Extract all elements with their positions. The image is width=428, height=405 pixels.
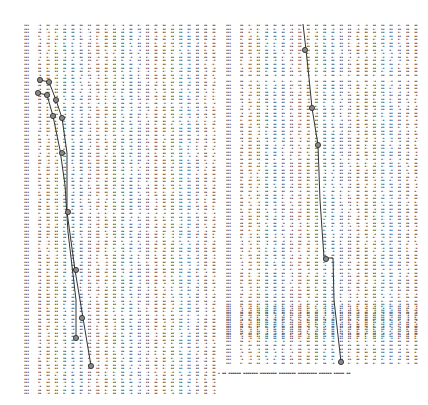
data-column: ▫▪▫▪▪▪▪▪▪▫▪▫▪▪▪▪▪▪▪▪▫▪▪▫▪▪▪▪▫▪▪▪▪▫: [373, 305, 381, 365]
data-column: ▫▪▪▪▫▪▪▪▪▪▪▫▪▪▪▪▫▪▪▪▪▪▪▫▪▪▪▪▪▪▪▪▫▪▫▪▪▪▪▪…: [373, 80, 381, 339]
data-column: ▪▪▪▪▪▪▪▪▫▪▪▪▪▪▪▫▫▪▫▪▪▫▪▪▫▪▪▪▪▪: [389, 24, 397, 77]
data-column: ▪▪▪▪▫▪▪▪▫▪▪▪▫▪▫▪▪▪▫▪▪▪▪▫▪▪▪▪▪▪▫▪▪▪▫▪▫▪▪▪…: [240, 80, 248, 339]
data-column: ▫▪▪▪▪▪▪▪▪▪▪▪▫▪▪▪▪▫▫▪▪▪▪▪▪▪▪▪▪▪: [364, 24, 372, 77]
data-column: ▪▪▫▪▪▪▪▪▫▪▪▪▪▪▪▫▫▪▪▫▪▫▪▪▪▪▪▪▪▪: [281, 24, 289, 77]
data-column: ▪▪▪▫▫▪▪▪▫▪▪▪▪▪▪▪▪▫▪▪▫▪▪▫▪▪▪▪▪▪▪▪▪▫▪▪▪▪▫▪…: [121, 236, 129, 396]
data-column: ▪▪▪▪▫▪▪▫▪▪▪▪▪▪▫▪▪▪▪▪▪▫▪▪▫▪▪▪▪▪▪▫▪▪▪▪▪▪▫▪…: [348, 80, 356, 339]
data-column: ▫▪▫▪▪▪▪▪▪▪▪▪▪▪▪▪▪▪▪▪▪▫▪▪▪▪▪▫▫▪▪▪▫▪▫▪▪▪▪▫…: [121, 24, 129, 237]
data-column: ▫▪▫▪▫▪▪▫▫▪▪▫▪▫▪▫▪▫▪▫▪▫▪▪▫▪▪▫▪▪▪▫▪▪: [323, 305, 331, 365]
data-column: ▪▫▪▪▪▫▪▪▪▪▫▪▪▪▪▫▪▪▪▫▪▪▪▪▪▪▪▪▪▪▪▫▪▪▪▪▪▪▫▪…: [290, 80, 298, 339]
data-column: ▪▪▪▪▪▪▫▪▪▪▪▪▫▪▪▫▫▪▫▪▪▪▪▪▫▪▪▫▪▪: [381, 24, 389, 77]
data-column: ▫▪▫▪▪▪▪▪▪▪▪▪▫▪▫▪▪▫▪▫▪▫▫▪▪▫▪▪▪▪▪▫▪▪: [364, 305, 372, 365]
data-column: ▪▪▪▪▪▪▪▪▪▪▪▫▪▪▪▫▪▪▪▪▫▪▪▫▪▪▫▪▪▪▪▫▪▪▪▪▪▫▫▪…: [204, 24, 212, 237]
data-column: ▪▪▪▪▪▪▪▪▪▫▫▪▪▫▪▪▪▫▪▫▪▫▫▪▪▪▪▪▫▪▪▪▪▪▪▪▪▪▪▪…: [340, 80, 348, 339]
data-column: ▪▫▪▪▪▪▪▪▫▪▪▪▪▪▪▫▪▪▪▫▪▫▪▪▪▪▪▪▪▫▪▪▪▫: [356, 305, 364, 365]
data-column: ▪▪▪▪▪▪▪▫▪▫▪▫▪▪▪▪▪▪▫▪▪▫▪▪▪▪▪▪▫▪▫▪▪▫▪▪▪▪▫▪…: [96, 24, 104, 237]
data-column: ▪▪▫▪▪▪▪▫▪▪▪▫▪▪▪▫▪▪▪▫▪▪▪▪▪▪▪▪▪▪: [331, 24, 339, 77]
data-column: ▪▪▪▫▪▪▫▪▪▫▪▪▪▪▪▪▫▪▫▪▪▪▪▪▪▪▪▪▪▫: [373, 24, 381, 77]
data-column: ▪▫▫▪▫▪▪▫▫▪▪▫▪▪▪▪▪▫▪▪▪▫▪▪▪▪▪▪▪▪▪▫▪▪▪▪▪▪▪▪…: [46, 236, 54, 396]
data-column: ▪▪▪▫▫▪▪▪▪▪▪▫▪▪▪▪▫▪▫▪▪▪▪▪▪▪▪▪▪▫▪▪▪▫▫▪▪▪▪▪…: [187, 236, 195, 396]
data-column: ▪▫▪▪▫▪▪▪▪▪▪▪▪▪▪▫▪▪▪▫▪▪▪▪▪▪▪▪▪▪▪▫▪▪: [381, 305, 389, 365]
data-column: ▪▪▪▪▪▪▪▫▪▪▪▫▪▪▪▪▪▪▪▫▪▪▪▪▫▪▪▪▫▪: [323, 24, 331, 77]
data-column: ▪▫▪▪▪▪▪▪▪▪▪▪▪▪▫▪▪▫▫▪▪▪▪▪▪▪▪▪▫▪▫▪▪▪▪▪▪▪▫▪…: [113, 24, 121, 237]
data-column: ▪▪▪▪▪▪▪▪▫▪▪▪▪▪▪▪▪▪▪▫▫▪▪▪▪▪▪▪▪▪▪▪▪▪: [298, 305, 306, 365]
data-column: ▪▪▪▫▪▪▪▪▪▪▪▪▫▪▪▪▪▪▫▪▪▪▪▫▫▪▪▫▪▪▪▪▪▪▪▪▪▪▪▫…: [63, 236, 71, 396]
data-column: ▪▪▪▪▪▪▪▪▪▪▫▪▪▪▪▪▪▪▪▫▪▪▪▪▪▫▪▪▪▪▪▪▪▫▫▪▫▪▪▪…: [88, 236, 96, 396]
data-column: ▪▫▪▫▪▪▫▪▪▪▪▪▪▪▪▪▪▪▫▪▪▪▪▪▪▫▪▪▪▪▪▫▫▪: [331, 305, 339, 365]
data-column: ▪▫▪▪▪▪▪▪▪▫▪▫▪▪▪▫▪▪▪▪▫▪▪▪▪▫▪▫▪▪▪▪▪▪: [281, 305, 289, 365]
footer-caption: ▪ ▬▬ ▬▬▬▬▬▬ ▬▬▬▬▬▬▬ ▬▬▬▬▬▬▬▬ ▬▬▬▬▬▬▬▬ ▬▬…: [218, 371, 351, 375]
data-column: ▫▪▪▫▪▪▫▪▫▪▪▪▪▪▪▪▪▪▪▪▪▪▪▫▪▫▪▪▪▪▪▪▫▪: [406, 305, 414, 365]
data-column: ▪▪▪▪▪▪▪▪▪▪▫▪▪▪▪▪▪▪▪▪▪▪▪▪▪▪▪▪▪▪▪▪▪▪▪▪▪▪▪▪…: [196, 24, 204, 237]
data-column: ▪▪▫▪▪▪▪▪▪▪▪▫▪▫▪▫▫▪▪▪▪▪▪▪▪▪▪▫▫▪▪▪▫▪▪▫▪▫▪▪…: [96, 236, 104, 396]
data-column: ▪▪▪▫▫▪▫▪▫▪▪▪▪▪▪▫▪▪▪▪▪▪▪▫▪▪▪▫▪▪▫▪▪▫▪▪▫▪▫▪…: [88, 24, 96, 237]
data-column: ▫▪▫▪▪▪▪▫▪▪▫▪▪▪▪▪▪▪▫▪▪▫▪▪▪▪▪▪▪▪: [356, 24, 364, 77]
row-label-column: ▪▪▪▪▪▪▪▪▪▪▪▪▪▪▪▪▪▪▪▪▪▪▪▪▪▪▪▪▪▪▪▪▪▪▪▪▪▪▪▪…: [226, 24, 240, 77]
data-column: ▪▫▪▫▪▪▫▪▪▪▫▪▫▪▪▫▫▪▪▪▪▪▪▪▫▪▫▪▪▪▪▪▪▪: [306, 305, 314, 365]
numeric-table-block: ▪▪▪▪▪▪▪▪▪▪▪▪▪▪▪▪▪▪▪▪▪▪▪▪▪▪▪▪▪▪▪▪▪▪▪▪▪▪▪▪…: [226, 80, 423, 339]
data-column: ▫▪▪▪▪▪▪▫▫▪▪▪▪▪▪▪▪▪▪▪▪▪▪▪▪▪▪▫▪▪▪▪▪▪▪▪▪▫▪▪…: [113, 236, 121, 396]
data-column: ▫▪▫▪▪▪▪▫▫▪▫▪▪▪▪▪▫▪▫▪▪▫▪▪▪▪▪▪▫▪▪▫▪▪▪▪▫▪▫▪…: [38, 24, 46, 237]
data-column: ▪▪▪▫▫▪▪▪▫▪▪▫▪▪▪▪▫▪▪▪▪▪▫▪▪▫▪▪▪▫: [315, 24, 323, 77]
data-column: ▪▫▪▫▪▫▪▪▪▪▪▪▪▪▫▪▫▪▪▪▪▪▪▪▫▪▪▪▪▫▪▫▪▪▫▪▪▪▪▪…: [265, 80, 273, 339]
numeric-table-block: ▪▪▪▪▪▪▪▪▪▪▪▪▪▪▪▪▪▪▪▪▪▪▪▪▪▪▪▪▪▪▪▪▪▪▪▪▪▪▪▪…: [24, 236, 221, 396]
numeric-table-block: ▪▪▪▪▪▪▪▪▪▪▪▪▪▪▪▪▪▪▪▪▪▪▪▪▪▪▪▪▪▪▪▪▪▪▪▪▪▪▪▪…: [24, 24, 221, 237]
row-label-column: ▪▪▪▪▪▪▪▪▪▪▪▪▪▪▪▪▪▪▪▪▪▪▪▪▪▪▪▪▪▪▪▪▪▪▪▪▪▪▪▪…: [226, 80, 240, 339]
data-column: ▪▪▪▫▪▫▪▫▪▪▪▪▪▪▪▪▫▪▪▪▪▪▪▪▪▪▪▪▪▪: [257, 24, 265, 77]
data-column: ▪▫▪▪▫▪▫▪▪▫▪▪▪▪▫▪▪▫▫▪▪▪▫▪▪▫▪▫▪▫▪▫▪▪▪▪▪▪▪▫…: [138, 24, 146, 237]
data-column: ▪▪▪▪▪▪▫▪▪▪▫▪▪▪▪▪▪▪▪▫▪▪▪▪▪▫▪▫▪▪▪▪▪▫▪▪▪▪▫▪…: [162, 24, 170, 237]
data-column: ▪▪▫▪▪▪▫▪▪▪▪▪▪▪▪▫▫▪▪▪▪▪▪▪▪▪▪▫▫▪▪▪▪▪▫▪▫▪▪▪…: [398, 80, 406, 339]
data-column: ▪▪▪▫▫▪▫▪▫▪▪▪▫▪▫▪▪▫▪▫▪▪▪▪▪▫▪▪▪▪▪▪▪▪▪▪▪▪▪▪…: [46, 24, 54, 237]
data-column: ▪▪▫▪▪▪▪▪▪▫▪▫▪▪▪▪▫▪▪▪▪▪▪▪▪▪▪▪▪▫▪▪▪▪▫▪▪▪▪▪…: [154, 236, 162, 396]
data-column: ▪▪▪▪▪▫▪▪▪▪▪▪▪▪▫▪▫▪▪▪▪▪▪▪▪▪▪▪▪▫: [340, 24, 348, 77]
data-column: ▪▪▫▪▪▪▪▪▪▫▫▪▪▪▪▪▫▪▫▪▪▪▪▪▪▪▪▪▪▪▪▫▪▪▫▪▪▫▪▪…: [129, 236, 137, 396]
data-column: ▪▪▪▪▪▪▪▪▪▫▪▪▪▪▪▪▪▪▪▫▪▪▪▫▪▪▪▪▪▪: [406, 24, 414, 77]
data-column: ▪▪▪▪▪▪▫▪▪▪▪▪▪▪▪▫▪▪▪▪▫▪▪▫▫▪▪▪▪▫▫▪▫▪▪▪▪▫▪▫…: [212, 24, 220, 237]
data-column: ▫▪▪▪▪▪▪▪▫▪▪▪▫▪▪▪▪▫▪▪▪▪▪▫▪▪▪▫▪▪▫▪▪▪▪▫▪▪▪▪…: [171, 24, 179, 237]
data-column: ▪▪▪▪▪▪▫▪▪▪▪▪▫▪▪▫▪▪▪▪▫▪▪▫▪▫▪▪▫▪▪▪▪▪▪▪▫▪▪▪…: [331, 80, 339, 339]
data-column: ▪▪▪▪▪▪▪▪▪▪▪▪▪▪▪▪▪▪▪▪▪▫▪▪▪▪▪▪▪▪: [414, 24, 422, 77]
data-column: ▪▫▫▪▪▪▪▫▪▪▪▫▪▪▪▪▪▪▪▪▪▪▪▪▪▪▪▪▪▪▪▪▪▪▪▫▫▪▪▪…: [273, 80, 281, 339]
data-column: ▪▪▪▪▪▪▪▪▪▫▪▪▪▪▪▪▪▪▪▪▪▫▪▫▫▪▪▪▪▪: [240, 24, 248, 77]
data-column: ▪▪▫▪▪▪▫▪▪▪▪▪▫▪▪▫▪▫▫▪▪▪▪▪▪▪▪▪▪▪▪▫▪▪: [389, 305, 397, 365]
row-label-column: ▪▪▪▪▪▪▪▪▪▪▪▪▪▪▪▪▪▪▪▪▪▪▪▪▪▪▪▪▪▪▪▪▪▪▪▪▪▪▪▪…: [226, 305, 240, 365]
data-column: ▫▪▪▪▪▪▪▪▪▪▫▪▫▪▪▪▪▪▪▪▪▪▪▪▪▪▪▪▫▪▪▪▫▪▪▪▫▪▪▪…: [306, 80, 314, 339]
data-column: ▪▪▪▪▪▪▪▪▪▪▪▪▫▪▪▫▫▪▪▪▪▪▪▪▫▪▪▪▫▪▪▪▪▪▪▪▫▪▪▪…: [179, 24, 187, 237]
data-column: ▫▪▫▪▪▪▪▪▪▪▪▫▪▪▪▪▪▪▪▪▪▪▪▫▪▪▫▪▪▫▪▫▪▫▫▪▪▪▫▪…: [171, 236, 179, 396]
data-column: ▪▪▪▪▪▪▫▪▫▪▪▪▪▫▪▪▪▪▪▪▫▪▪▪▪▫▫▪▫▪▪▫▪▪: [273, 305, 281, 365]
data-column: ▪▪▪▪▫▪▫▪▪▪▪▪▪▪▪▪▪▪▪▪▪▪▫▪▪▪▪▫▪▪▪▫▫▪▫▪▪▫▫▪…: [298, 80, 306, 339]
data-column: ▪▪▪▫▪▪▪▪▪▪▪▪▪▪▪▫▫▪▪▪▫▪▪▪▪▪▪▪▪▫▪▪▪▪▪▫▪▪▪▫…: [104, 24, 112, 237]
data-column: ▫▪▪▪▪▪▫▪▪▪▪▫▫▪▫▪▪▪▪▪▪▫▪▫▪▪▪▫▫▪▪▪▫▪▪▪▪▪▪▪…: [406, 80, 414, 339]
data-column: ▪▪▪▪▪▫▪▪▪▪▪▪▪▪▪▪▪▪▪▫▫▪▪▪▪▪▪▪▪▪▪▪▫▪▫▪▪▪▫▪…: [204, 236, 212, 396]
numeric-table-block: ▪▪▪▪▪▪▪▪▪▪▪▪▪▪▪▪▪▪▪▪▪▪▪▪▪▪▪▪▪▪▪▪▪▪▪▪▪▪▪▪…: [226, 305, 423, 365]
data-column: ▪▫▪▪▪▪▪▫▪▪▪▪▪▫▪▪▪▪▪▪▪▫▪▪▪▪▪▪▪▪▫▪▪▪▪▪▪▪▪▪…: [356, 80, 364, 339]
data-column: ▫▪▫▪▪▫▪▫▪▪▪▫▪▫▪▪▪▪▪▪▪▪▪▪▪▪▪▪▪▪▪▪▫▪▫▪▪▫▫▪…: [389, 80, 397, 339]
data-column: ▪▪▪▫▪▫▪▫▪▪▪▫▪▫▪▪▪▪▪▪▫▪▪▪▫▪▪▪▫▪▪▫▪▫▫▪▫▪▪▫…: [79, 24, 87, 237]
data-column: ▪▫▪▪▪▪▫▪▪▪▪▪▪▪▪▪▪▫▪▪▪▪▫▪▪▪▫▪▪▫▫▪▪▪▪▫▪▪▪▪…: [162, 236, 170, 396]
row-label-column: ▪▪▪▪▪▪▪▪▪▪▪▪▪▪▪▪▪▪▪▪▪▪▪▪▪▪▪▪▪▪▪▪▪▪▪▪▪▪▪▪…: [24, 236, 38, 396]
data-column: ▪▪▪▪▪▪▪▪▪▪▪▫▫▪▪▫▪▪▫▪▪▫▪▪▪▪▪▫▪▪▪▪▪▪▪▪▪▪▪▪…: [129, 24, 137, 237]
data-column: ▪▪▪▪▪▪▪▫▫▪▪▪▪▪▪▪▪▫▪▪▪▪▪▫▪▫▫▪▪▫▪▪▪▪: [290, 305, 298, 365]
data-column: ▪▪▪▫▪▪▪▪▪▫▪▪▪▪▪▪▫▪▪▪▪▪▪▪▪▪▪▪▫▪▪▪▪▪: [340, 305, 348, 365]
data-column: ▪▫▫▪▪▪▪▪▪▪▪▪▫▪▪▪▪▪▪▪▪▪▪▪▪▪▪▪▪▪▪▪▪▫: [315, 305, 323, 365]
data-column: ▪▪▪▪▪▪▪▫▪▪▪▪▪▪▪▫▪▪▪▪▪▫▪▪▪▪▪▫▪▫▪▪▪▫: [348, 305, 356, 365]
row-label-column: ▪▪▪▪▪▪▪▪▪▪▪▪▪▪▪▪▪▪▪▪▪▪▪▪▪▪▪▪▪▪▪▪▪▪▪▪▪▪▪▪…: [24, 24, 38, 237]
data-column: ▪▫▪▫▫▪▪▪▪▪▪▫▪▪▪▪▫▪▪▪▪▪▪▫▪▪▪▪▪▪▫▪▪▪▫▪▫▪▫▪…: [179, 236, 187, 396]
data-column: ▫▪▪▪▪▪▪▫▫▪▫▪▪▪▪▪▪▪▪▫▪▪▪▪▪▪▪▫▪▪▪▪▪▪: [414, 305, 422, 365]
data-column: ▪▪▪▪▪▪▪▫▪▪▪▪▪▫▪▫▪▪▪▪▪▪▪▫▪▪▪▪▪▪▪▪▪▪▪▪▪▪▪▪…: [323, 80, 331, 339]
data-column: ▪▪▪▫▪▪▫▪▪▪▪▫▪▪▪▪▪▪▪▪▪▪▪▫▪▪▪▫▪▪▪▪▫▪▪▪▪▫▫▪…: [154, 24, 162, 237]
data-column: ▪▪▪▫▪▪▪▪▫▪▪▫▪▫▪▫▪▪▪▪▫▪▪▪▪▪▪▪▫▪: [273, 24, 281, 77]
data-column: ▪▪▪▪▪▪▪▪▪▫▪▫▪▫▪▪▫▪▫▪▪▫▪▪▪▫▪▪▪▫: [348, 24, 356, 77]
data-column: ▪▫▫▪▪▪▪▪▪▪▫▪▪▪▫▪▫▪▪▪▪▫▪▪▫▪▫▪▪▪▫▪▪▪▪▪▪▪▪▫…: [196, 236, 204, 396]
data-column: ▪▪▪▪▪▪▪▪▫▪▪▫▪▫▪▫▪▪▫▪▪▫▪▪▪▪▪▪▪▫▪▪▪▪▫▪▪▪▪▫…: [71, 24, 79, 237]
data-column: ▪▪▪▪▫▪▪▫▪▪▪▫▪▪▫▪▪▫▪▪▪▪▪▪▪▪▪▪▫▪: [306, 24, 314, 77]
data-column: ▫▪▪▪▪▫▫▪▪▪▪▫▪▫▪▫▪▪▪▪▪▪▪▪▪▪▪▪▫▪▪▪▫▪▫▪▪▪▪▪…: [55, 24, 63, 237]
data-column: ▪▪▪▪▪▫▪▫▪▪▪▪▪▪▪▪▫▪▪▪▪▪▪▪▫▪▪▪▫▪▪▪▪▪▪▪▪▪▪▪…: [38, 236, 46, 396]
data-column: ▪▪▪▪▪▪▪▪▪▪▪▪▪▪▪▪▪▪▪▫▪▪▪▪▪▪▫▪▪▪▪▪▫▪▪▪▪▪▪▪…: [146, 24, 154, 237]
data-column: ▪▪▫▪▫▪▪▪▫▪▪▪▪▪▪▫▪▪▫▪▪▪▪▪▪▪▫▪▪▪▪▫▪▪▪▫▫▪▪▪…: [315, 80, 323, 339]
data-column: ▪▫▫▪▪▪▪▫▪▪▪▪▪▪▪▪▪▫▫▪▪▪▪▫▪▫▫▪▪▫▫▪▪▫: [240, 305, 248, 365]
data-column: ▪▪▪▪▪▪▪▪▫▪▪▪▪▪▪▪▪▪▪▫▪▫▫▪▪▪▪▪▪▪▪▪▫▪▫▪▪▪▪▪…: [381, 80, 389, 339]
data-column: ▪▫▪▪▪▪▪▪▪▪▫▪▪▪▪▪▪▪▪▪▪▪▪▪▪▪▫▪▫▪▫▪▪▫▪▪▪▪▪▪…: [257, 80, 265, 339]
data-column: ▪▪▪▪▪▪▪▪▫▪▪▫▪▫▫▪▪▪▪▪▪▪▫▪▪▪▫▪▪▫▪▪▫▪▪▫▪▫▪▪…: [414, 80, 422, 339]
data-column: ▫▪▪▪▪▪▪▫▪▫▪▪▫▪▫▪▫▪▫▪▪▪▫▪▪▪▪▫▫▪▪▪▪▪▪▪▪▪▪▪…: [104, 236, 112, 396]
